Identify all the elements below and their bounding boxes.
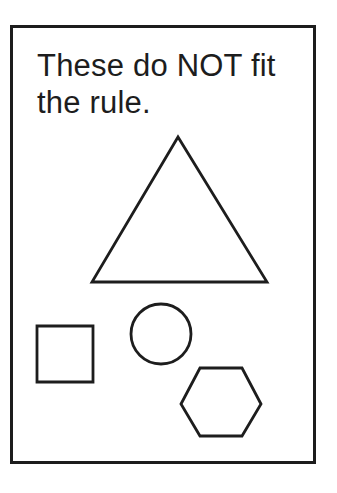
rule-panel: These do NOT fit the rule. — [10, 25, 316, 464]
panel-caption: These do NOT fit the rule. — [13, 28, 313, 121]
caption-line-2: the rule. — [37, 84, 313, 121]
caption-line-1: These do NOT fit — [37, 47, 313, 84]
page: These do NOT fit the rule. — [0, 0, 337, 493]
